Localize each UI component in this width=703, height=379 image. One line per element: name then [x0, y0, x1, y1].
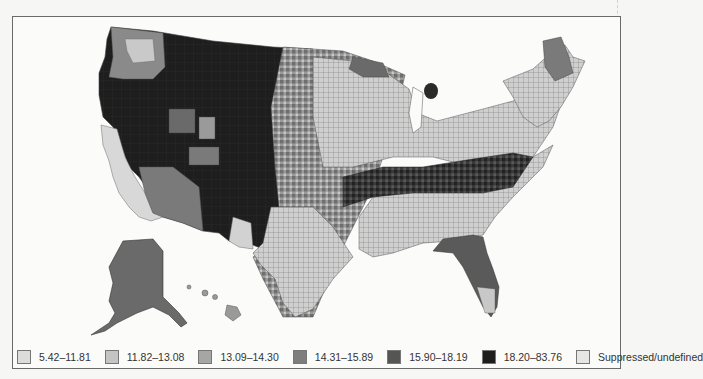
legend-label: 18.20–83.76 — [504, 351, 562, 363]
legend-swatch — [387, 350, 401, 364]
legend-item-class-6: 18.20–83.76 — [482, 350, 562, 364]
map-figure: 5.42–11.81 11.82–13.08 13.09–14.30 14.31… — [12, 16, 621, 369]
legend-label: 14.31–15.89 — [315, 351, 373, 363]
legend-label: 11.82–13.08 — [127, 351, 185, 363]
legend-item-class-3: 13.09–14.30 — [198, 350, 278, 364]
legend-item-class-4: 14.31–15.89 — [293, 350, 373, 364]
legend-label: 5.42–11.81 — [39, 351, 91, 363]
choropleth-map — [13, 17, 620, 347]
legend-item-class-2: 11.82–13.08 — [105, 350, 185, 364]
legend-swatch — [576, 350, 590, 364]
legend-swatch — [293, 350, 307, 364]
legend-item-class-5: 15.90–18.19 — [387, 350, 467, 364]
legend-item-suppressed: Suppressed/undefined — [576, 350, 703, 364]
legend-label: Suppressed/undefined — [598, 351, 703, 363]
legend-label: 13.09–14.30 — [220, 351, 278, 363]
legend-swatch — [198, 350, 212, 364]
map-legend: 5.42–11.81 11.82–13.08 13.09–14.30 14.31… — [17, 347, 703, 367]
legend-swatch — [482, 350, 496, 364]
region-hawaii — [225, 305, 241, 321]
legend-swatch — [17, 350, 31, 364]
legend-label: 15.90–18.19 — [409, 351, 467, 363]
region-alaska — [91, 239, 187, 335]
legend-swatch — [105, 350, 119, 364]
legend-item-class-1: 5.42–11.81 — [17, 350, 91, 364]
